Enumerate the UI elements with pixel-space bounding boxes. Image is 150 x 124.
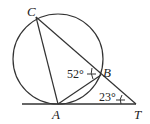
angle-label-T: 23°	[99, 90, 116, 104]
point-label-T: T	[134, 107, 142, 122]
geometry-diagram: C B A T 52° 23°	[0, 0, 150, 124]
angle-label-B: 52°	[67, 67, 84, 81]
point-label-A: A	[51, 107, 60, 122]
point-label-C: C	[27, 4, 36, 19]
circle	[13, 14, 103, 104]
secant-line-CT	[36, 17, 136, 104]
chord-CA	[36, 17, 58, 104]
point-label-B: B	[103, 65, 111, 80]
